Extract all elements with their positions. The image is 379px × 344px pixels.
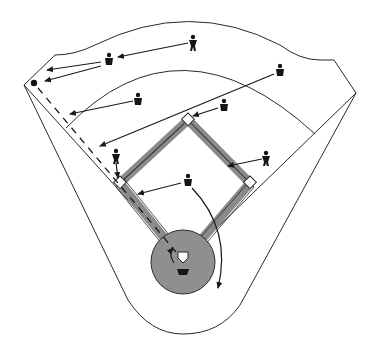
third-baseman-icon <box>112 149 120 164</box>
center-fielder-icon <box>189 35 197 51</box>
diagram-stage: Baseball relay play diagram: ball hit do… <box>0 0 379 344</box>
right-fielder-icon <box>276 64 284 76</box>
pitcher-icon <box>184 174 192 186</box>
shortstop-icon <box>134 93 142 105</box>
first-baseman-icon <box>262 151 270 166</box>
catcher-icon <box>177 269 189 275</box>
ball-icon <box>31 80 37 86</box>
second-baseman-icon <box>220 99 228 111</box>
relay-path-dashed <box>38 88 176 252</box>
outfield-fence <box>24 22 356 94</box>
baseball-field-diagram <box>0 0 379 344</box>
left-fielder-icon <box>105 53 113 65</box>
